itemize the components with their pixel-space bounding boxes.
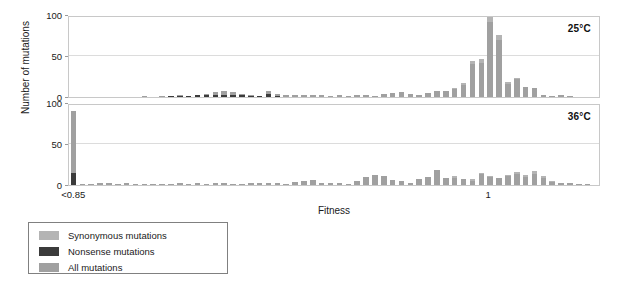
bar-segment-all [487,177,492,185]
histogram-bar [142,96,147,97]
bar-segment-nonsense [195,95,200,97]
panel-25c: 25°C [68,16,600,98]
figure-root: Number of mutations 25°C 050100 36°C 050… [0,0,624,289]
bar-segment-all [479,174,484,185]
bar-segment-all [425,93,430,97]
histogram-bar [213,183,218,185]
bar-segment-all [328,183,333,185]
bar-segment-nonsense [213,95,218,97]
y-tick-mark [65,103,68,104]
histogram-bar [479,58,484,97]
bar-segment-all [549,96,554,97]
y-tick-mark [65,15,68,16]
histogram-bar [310,180,315,185]
histogram-bar [381,94,386,97]
histogram-bar [257,96,262,97]
histogram-bar [239,184,244,185]
histogram-bar [390,180,395,185]
histogram-bar [328,96,333,97]
bar-segment-all [115,184,120,185]
histogram-bar [204,93,209,97]
histogram-bar [408,94,413,97]
bar-segment-all [275,183,280,185]
bar-segment-all [310,95,315,97]
histogram-bar [275,94,280,97]
bar-segment-all [177,183,182,185]
bar-segment-all [124,183,129,185]
histogram-bar [283,184,288,185]
bar-segment-all [239,184,244,185]
histogram-bar [399,181,404,185]
bar-segment-all [168,184,173,185]
bar-segment-all [558,183,563,185]
bar-segment-all [195,183,200,185]
bar-segment-all [328,96,333,97]
histogram-bar [354,95,359,97]
histogram-bar [71,111,76,185]
legend-item-synonymous: Synonymous mutations [39,228,227,243]
bar-segment-nonsense [186,96,191,97]
bar-segment-all [97,183,102,185]
legend-label-synonymous: Synonymous mutations [68,230,167,241]
bars-36c [69,105,599,185]
temperature-label-25c: 25°C [568,23,591,34]
y-tick-mark [65,144,68,145]
histogram-bar [150,184,155,185]
bar-segment-all [452,89,457,97]
histogram-bar [487,17,492,97]
bar-segment-all [106,183,111,185]
bar-segment-all [408,183,413,185]
histogram-bar [461,178,466,185]
histogram-bar [301,181,306,185]
legend-item-nonsense: Nonsense mutations [39,244,227,259]
histogram-bar [275,183,280,185]
plot-area-36c [69,105,599,185]
histogram-bar [195,95,200,97]
histogram-bar [408,183,413,185]
bar-segment-all [434,170,439,185]
bar-segment-all [301,181,306,185]
histogram-bar [168,184,173,185]
bar-segment-all [372,175,377,185]
histogram-bar [346,184,351,185]
y-tick-mark [65,185,68,186]
histogram-bar [479,172,484,185]
histogram-bar [532,87,537,97]
bars-25c [69,17,599,97]
bar-segment-all [346,96,351,97]
bar-segment-all [310,180,315,185]
bar-segment-all [221,183,226,185]
bar-segment-all [585,184,590,185]
legend-swatch-synonymous [39,231,59,240]
histogram-bar [434,90,439,97]
bar-segment-all [443,178,448,185]
bar-segment-all [567,96,572,97]
histogram-bar [505,81,510,97]
bar-segment-all [479,63,484,97]
histogram-bar [239,94,244,97]
bar-segment-all [399,92,404,97]
bar-segment-nonsense [177,96,182,97]
histogram-bar [168,96,173,97]
histogram-bar [567,183,572,185]
histogram-bar [319,183,324,185]
bar-segment-all [496,178,501,185]
bar-segment-all [461,85,466,97]
histogram-bar [186,184,191,185]
bar-segment-all [159,96,164,97]
bar-segment-all [541,95,546,97]
bar-segment-all [408,94,413,97]
bar-segment-all [434,91,439,97]
histogram-bar [434,169,439,185]
histogram-bar [337,95,342,97]
histogram-bar [496,177,501,185]
histogram-bar [266,183,271,185]
histogram-bar [301,95,306,97]
bar-segment-all [372,96,377,97]
bar-segment-nonsense [71,173,76,185]
x-tick-label: 1 [458,189,518,200]
histogram-bar [88,184,93,185]
legend-swatch-nonsense [39,247,59,256]
y-tick-label: 100 [46,11,62,20]
legend-swatch-all [39,263,59,272]
